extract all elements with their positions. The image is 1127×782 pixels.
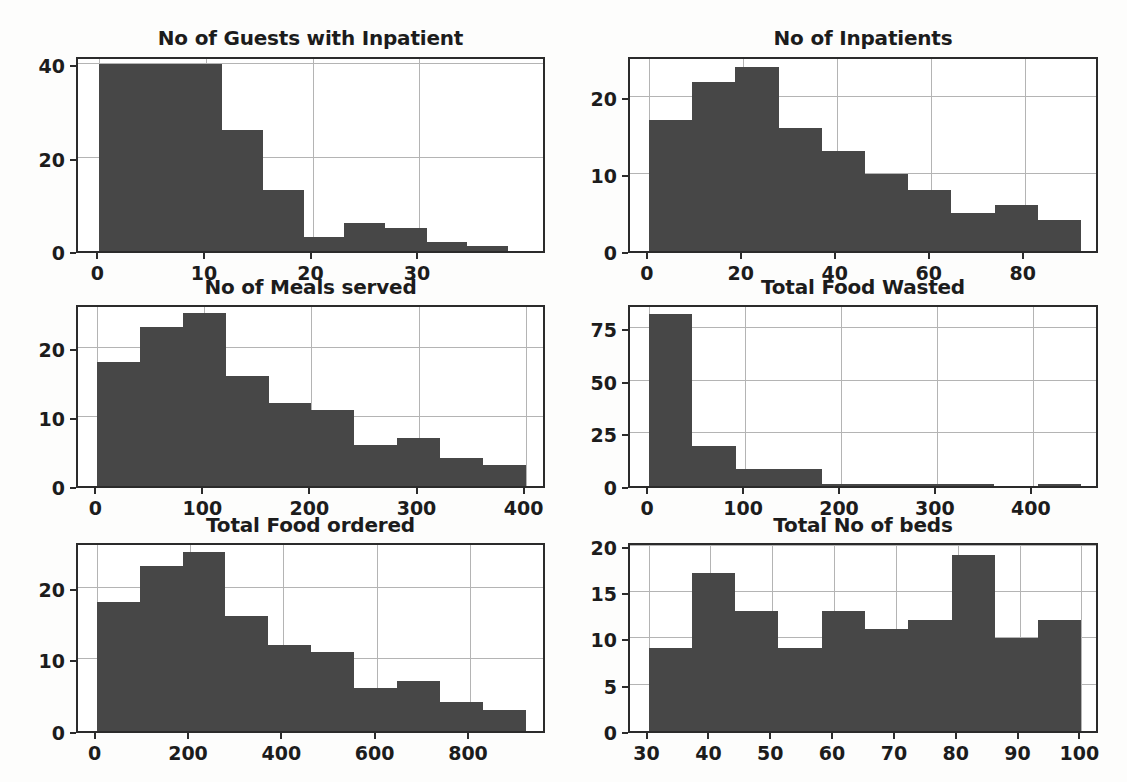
bar — [183, 313, 226, 486]
gridline-horizontal — [78, 347, 543, 348]
bar — [649, 648, 692, 731]
x-tick-label: 600 — [355, 742, 395, 764]
gridline-vertical — [204, 307, 205, 486]
y-tick-mark — [622, 487, 628, 489]
gridline-vertical — [649, 59, 650, 251]
x-tick-mark — [893, 733, 895, 739]
gridline-vertical — [743, 59, 744, 251]
plot-wrapper-1: 020400102030 — [76, 57, 545, 253]
chart-panel-1: No of Guests with Inpatient020400102030 — [0, 0, 1127, 782]
gridline-vertical — [99, 59, 100, 251]
x-tick-mark — [280, 733, 282, 739]
bar — [268, 645, 311, 731]
y-tick-label: 0 — [604, 242, 617, 264]
bar — [311, 410, 354, 486]
bar — [97, 602, 140, 731]
bar — [344, 223, 385, 251]
y-tick-label: 0 — [604, 477, 617, 499]
chart-panel-4: Total Food Wasted02550750100200300400 — [0, 0, 1127, 782]
x-tick-label: 0 — [640, 262, 653, 284]
x-tick-label: 800 — [448, 742, 488, 764]
bar — [263, 190, 304, 251]
y-tick-label: 75 — [591, 319, 617, 341]
gridline-vertical — [97, 545, 98, 731]
bar — [483, 710, 526, 732]
bar — [269, 403, 312, 486]
x-tick-mark — [310, 253, 312, 259]
x-tick-label: 20 — [728, 262, 754, 284]
x-tick-mark — [707, 733, 709, 739]
chart-title-6: Total No of beds — [628, 513, 1098, 537]
bar — [354, 688, 397, 731]
y-tick-label: 5 — [604, 676, 617, 698]
x-tick-mark — [838, 488, 840, 494]
x-tick-mark — [94, 488, 96, 494]
gridline-vertical — [1025, 59, 1026, 251]
chart-panel-3: No of Meals served010200100200300400 — [0, 0, 1127, 782]
x-tick-mark — [934, 488, 936, 494]
x-tick-label: 400 — [261, 742, 301, 764]
y-tick-mark — [622, 329, 628, 331]
x-tick-mark — [831, 733, 833, 739]
x-tick-label: 200 — [290, 497, 330, 519]
y-tick-mark — [70, 732, 76, 734]
bar — [692, 82, 735, 251]
gridline-vertical — [937, 307, 938, 486]
bar — [311, 652, 354, 731]
bar — [692, 446, 735, 486]
gridline-vertical — [377, 545, 378, 731]
y-tick-mark — [622, 547, 628, 549]
x-tick-label: 60 — [916, 262, 942, 284]
gridline-vertical — [206, 59, 207, 251]
y-tick-label: 15 — [591, 583, 617, 605]
bar — [397, 681, 440, 731]
bar — [736, 469, 779, 486]
histogram-figure: No of Guests with Inpatient020400102030N… — [0, 0, 1127, 782]
bar — [354, 445, 397, 486]
x-tick-label: 30 — [633, 742, 659, 764]
y-tick-mark — [622, 252, 628, 254]
bar — [483, 465, 526, 486]
y-tick-mark — [70, 589, 76, 591]
y-tick-mark — [70, 487, 76, 489]
y-tick-mark — [622, 98, 628, 100]
x-tick-mark — [416, 253, 418, 259]
chart-title-3: No of Meals served — [76, 275, 545, 299]
bar — [226, 376, 269, 486]
gridline-vertical — [837, 59, 838, 251]
bar — [440, 702, 483, 731]
gridline-horizontal — [630, 545, 1096, 546]
gridline-vertical — [649, 545, 650, 731]
y-tick-mark — [622, 593, 628, 595]
bar — [140, 566, 183, 731]
gridline-vertical — [772, 545, 773, 731]
x-tick-label: 100 — [183, 497, 223, 519]
bar — [649, 120, 692, 251]
bar — [908, 620, 951, 731]
y-tick-label: 0 — [52, 477, 65, 499]
gridline-horizontal — [78, 157, 543, 158]
x-tick-label: 70 — [881, 742, 907, 764]
bar — [225, 616, 268, 731]
gridline-vertical — [1033, 307, 1034, 486]
plot-wrapper-4: 02550750100200300400 — [628, 305, 1098, 488]
y-tick-mark — [70, 252, 76, 254]
x-tick-label: 50 — [757, 742, 783, 764]
bar — [467, 246, 508, 251]
y-tick-label: 10 — [39, 650, 65, 672]
bar — [140, 327, 183, 486]
gridline-horizontal — [78, 416, 543, 417]
gridline-vertical — [649, 307, 650, 486]
chart-panel-6: Total No of beds051015203040506070809010… — [0, 0, 1127, 782]
bar — [183, 552, 226, 731]
bar — [951, 213, 994, 251]
plot-area-5 — [76, 543, 545, 733]
y-tick-label: 0 — [52, 242, 65, 264]
bar — [735, 67, 778, 251]
y-tick-label: 20 — [39, 149, 65, 171]
bar — [865, 629, 908, 731]
x-tick-label: 40 — [695, 742, 721, 764]
plot-wrapper-2: 01020020406080 — [628, 57, 1098, 253]
y-tick-label: 20 — [591, 537, 617, 559]
x-tick-mark — [94, 733, 96, 739]
